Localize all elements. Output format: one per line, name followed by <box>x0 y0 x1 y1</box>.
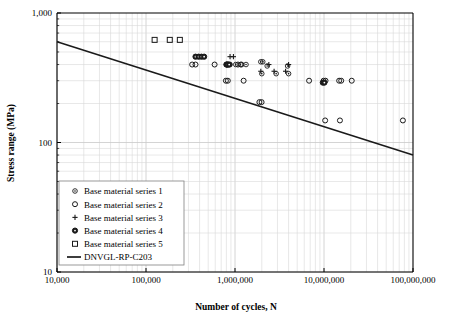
x-tick-label: 10,000,000 <box>304 275 345 285</box>
x-tick-label: 1,000,000 <box>217 275 254 285</box>
legend-marker-filled-circle-icon-center <box>74 230 76 232</box>
data-point-center <box>203 56 205 58</box>
chart-background <box>0 0 451 317</box>
legend-marker-small-diamond-icon-dot <box>74 190 76 192</box>
sn-curve-chart: 10,000100,0001,000,00010,000,000100,000,… <box>0 0 451 317</box>
legend-item-1[interactable]: Base material series 1 <box>73 186 163 196</box>
series-5-points <box>152 37 182 42</box>
data-point-center <box>228 64 230 66</box>
y-tick-label: 100 <box>39 138 53 148</box>
data-point-dot <box>275 73 277 75</box>
data-point-dot <box>288 73 290 75</box>
y-tick-label: 10 <box>43 267 53 277</box>
legend-item-label: Base material series 5 <box>84 239 163 249</box>
legend-item-3[interactable]: Base material series 3 <box>72 213 163 223</box>
x-axis-title: Number of cycles, N <box>195 302 277 312</box>
x-tick-label: 100,000,000 <box>391 275 437 285</box>
y-axis-title: Stress range (MPa) <box>6 104 17 182</box>
legend-item-label: Base material series 2 <box>84 200 163 210</box>
x-tick-label: 100,000 <box>131 275 161 285</box>
data-point-center <box>323 82 325 84</box>
legend-item-label: Base material series 1 <box>84 186 163 196</box>
chart-container: 10,000100,0001,000,00010,000,000100,000,… <box>0 0 451 317</box>
data-point-dot <box>266 65 268 67</box>
legend-item-label: DNVGL-RP-C203 <box>84 252 153 262</box>
legend-item-5[interactable]: Base material series 5 <box>73 239 164 249</box>
legend-item-2[interactable]: Base material series 2 <box>73 200 163 210</box>
legend[interactable]: Base material series 1Base material seri… <box>59 181 184 265</box>
legend-item-4[interactable]: Base material series 4 <box>72 226 163 236</box>
data-point-dot <box>245 64 247 66</box>
data-point-dot <box>262 61 264 63</box>
legend-item-label: Base material series 4 <box>84 226 163 236</box>
legend-item-label: Base material series 3 <box>84 213 163 223</box>
y-tick-label: 1,000 <box>32 8 53 18</box>
